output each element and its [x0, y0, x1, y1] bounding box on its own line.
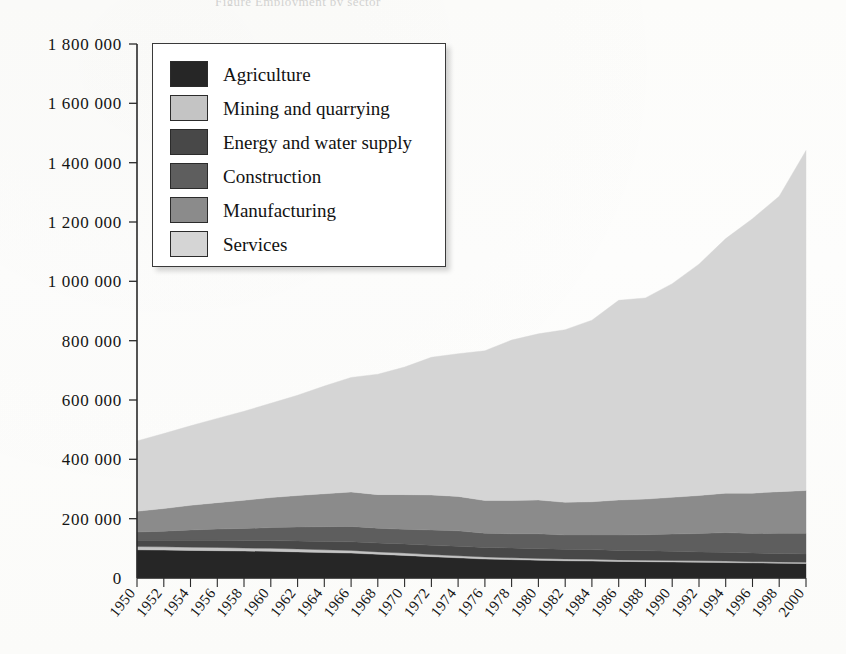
x-tick-label: 2000 [775, 585, 807, 620]
x-tick-label: 1956 [187, 585, 219, 620]
x-tick-label: 1988 [615, 585, 647, 620]
legend-item-construction[interactable]: Construction [170, 159, 445, 193]
legend-swatch-icon [170, 231, 208, 257]
x-tick-label: 1982 [534, 585, 566, 620]
legend-item-label: Construction [223, 167, 321, 186]
y-tick-label: 1 800 000 [48, 35, 122, 54]
legend-swatch-icon [170, 129, 208, 155]
x-tick-label: 1984 [561, 585, 593, 620]
legend-item-label: Mining and quarrying [223, 99, 390, 118]
legend-item-label: Manufacturing [223, 201, 336, 220]
y-tick-label: 600 000 [62, 391, 122, 410]
legend-item-mining-and-quarrying[interactable]: Mining and quarrying [170, 91, 445, 125]
x-tick-label: 1970 [374, 585, 406, 620]
x-tick-label: 1954 [160, 585, 192, 620]
x-tick-label: 1996 [722, 585, 754, 620]
y-tick-label: 200 000 [62, 510, 122, 529]
x-tick-label: 1960 [240, 585, 272, 620]
y-tick-label: 1 000 000 [48, 272, 122, 291]
chart-legend: AgricultureMining and quarryingEnergy an… [152, 43, 446, 267]
legend-item-label: Energy and water supply [223, 133, 412, 152]
legend-item-label: Agriculture [223, 65, 311, 84]
legend-item-energy-and-water-supply[interactable]: Energy and water supply [170, 125, 445, 159]
x-axis-ticks: 1950195219541956195819601962196419661968… [106, 578, 807, 620]
x-tick-label: 1958 [213, 585, 245, 620]
legend-item-services[interactable]: Services [170, 227, 445, 261]
x-tick-label: 1976 [454, 585, 486, 620]
y-tick-label: 0 [113, 569, 122, 588]
x-tick-label: 1966 [320, 585, 352, 620]
x-tick-label: 1994 [695, 585, 727, 620]
legend-item-agriculture[interactable]: Agriculture [170, 57, 445, 91]
y-tick-label: 1 200 000 [48, 213, 122, 232]
legend-item-label: Services [223, 235, 287, 254]
x-tick-label: 1962 [267, 585, 299, 620]
legend-swatch-icon [170, 197, 208, 223]
x-tick-label: 1980 [508, 585, 540, 620]
y-tick-label: 1 600 000 [48, 94, 122, 113]
x-tick-label: 1978 [481, 585, 513, 620]
x-tick-label: 1998 [748, 585, 780, 620]
y-tick-label: 1 400 000 [48, 154, 122, 173]
x-tick-label: 1950 [106, 585, 138, 620]
x-tick-label: 1992 [668, 585, 700, 620]
x-tick-label: 1964 [294, 585, 326, 620]
legend-item-manufacturing[interactable]: Manufacturing [170, 193, 445, 227]
y-tick-label: 800 000 [62, 332, 122, 351]
x-tick-label: 1974 [427, 585, 459, 620]
legend-swatch-icon [170, 95, 208, 121]
x-tick-label: 1972 [401, 585, 433, 620]
legend-swatch-icon [170, 61, 208, 87]
y-axis-ticks: 0200 000400 000600 000800 0001 000 0001 … [48, 35, 137, 588]
y-tick-label: 400 000 [62, 450, 122, 469]
x-tick-label: 1990 [641, 585, 673, 620]
x-tick-label: 1986 [588, 585, 620, 620]
x-tick-label: 1968 [347, 585, 379, 620]
x-tick-label: 1952 [133, 585, 165, 620]
legend-swatch-icon [170, 163, 208, 189]
